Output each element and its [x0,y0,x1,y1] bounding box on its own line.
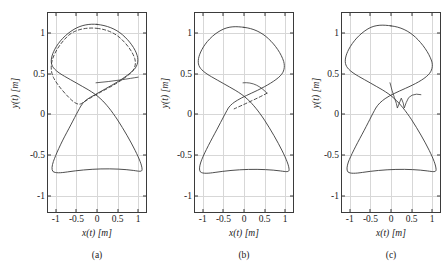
y-tick-label: 0.5 [327,69,339,79]
x-tick-label: 1 [430,214,435,224]
tick-mark [437,155,440,156]
tick-mark [290,196,293,197]
tick-mark [432,209,433,212]
tick-mark [342,114,345,115]
panel-b-x-axis-label: x(t) [m] [194,228,294,238]
x-tick-label: 0.5 [112,214,124,224]
tick-mark [195,32,198,33]
x-tick-label: -0.5 [69,214,84,224]
panel-b-curves [195,13,293,212]
tick-mark [76,209,77,212]
tick-mark [342,73,345,74]
y-tick-label: 0.5 [33,69,45,79]
tick-mark [349,209,350,212]
tick-mark [391,209,392,212]
y-tick-label: -0.5 [30,150,45,160]
tick-mark [223,13,224,16]
x-tick-label: 1 [283,214,288,224]
tick-mark [202,13,203,16]
y-tick-label: 1 [40,28,45,38]
y-tick-label: 0.5 [180,69,192,79]
x-tick-label: 0.5 [406,214,418,224]
tick-mark [264,13,265,16]
panel-a-plot-area: 1 0.5 0 -0.5 -1 -1 -0.5 0 0.5 1 [47,12,147,213]
tick-mark [244,209,245,212]
curve-actual-trajectory [198,27,289,174]
x-tick-label: 0 [242,214,247,224]
panel-b: y(t) [m] [149,0,298,273]
tick-mark [411,13,412,16]
x-tick-label: -0.5 [216,214,231,224]
tick-mark [55,13,56,16]
tick-mark [342,196,345,197]
tick-mark [143,114,146,115]
tick-mark [349,13,350,16]
x-tick-label: -1 [346,214,354,224]
tick-mark [138,209,139,212]
tick-mark [285,209,286,212]
tick-mark [97,209,98,212]
x-tick-label: 0.5 [259,214,271,224]
panel-b-caption: (b) [194,250,294,260]
tick-mark [76,13,77,16]
tick-mark [48,114,51,115]
tick-mark [195,196,198,197]
y-tick-label: -0.5 [324,150,339,160]
curve-actual-trajectory [51,24,142,173]
tick-mark [143,32,146,33]
tick-mark [437,196,440,197]
tick-mark [143,196,146,197]
tick-mark [437,114,440,115]
tick-mark [117,13,118,16]
y-tick-label: 1 [334,28,339,38]
tick-mark [195,73,198,74]
tick-mark [223,209,224,212]
tick-mark [55,209,56,212]
x-tick-label: 0 [95,214,100,224]
tick-mark [370,13,371,16]
x-tick-label: -1 [52,214,60,224]
y-tick-label: 0 [40,109,45,119]
tick-mark [143,73,146,74]
curve-actual-trajectory [345,25,436,173]
tick-mark [138,13,139,16]
tick-mark [391,13,392,16]
tick-mark [202,209,203,212]
panel-a-x-axis-label: x(t) [m] [47,228,147,238]
tick-mark [48,73,51,74]
x-tick-label: -1 [199,214,207,224]
tick-mark [195,155,198,156]
tick-mark [117,209,118,212]
curve-transient-dashed [234,93,267,109]
tick-mark [432,13,433,16]
tick-mark [342,155,345,156]
y-tick-label: -1 [37,191,45,201]
tick-mark [195,114,198,115]
panel-c-plot-area: 1 0.5 0 -0.5 -1 -1 -0.5 0 0.5 1 [341,12,441,213]
tick-mark [370,209,371,212]
tick-mark [290,32,293,33]
panel-c-x-axis-label: x(t) [m] [341,228,441,238]
tick-mark [244,13,245,16]
y-tick-label: -1 [184,191,192,201]
tick-mark [285,13,286,16]
figure-three-panel-phase-plots: y(t) [m] [0,0,447,273]
y-tick-label: 1 [187,28,192,38]
tick-mark [290,155,293,156]
y-tick-label: 0 [334,109,339,119]
tick-mark [437,73,440,74]
panel-c-caption: (c) [341,250,441,260]
tick-mark [437,32,440,33]
panel-b-y-axis-label: y(t) [m] [160,53,170,133]
tick-mark [411,209,412,212]
tick-mark [342,32,345,33]
tick-mark [143,155,146,156]
x-tick-label: -0.5 [363,214,378,224]
curve-transient-zigzag [390,83,421,108]
y-tick-label: -1 [331,191,339,201]
panel-c-y-axis-label: y(t) [m] [311,53,321,133]
tick-mark [48,196,51,197]
tick-mark [97,13,98,16]
tick-mark [48,32,51,33]
panel-a: y(t) [m] [0,0,149,273]
